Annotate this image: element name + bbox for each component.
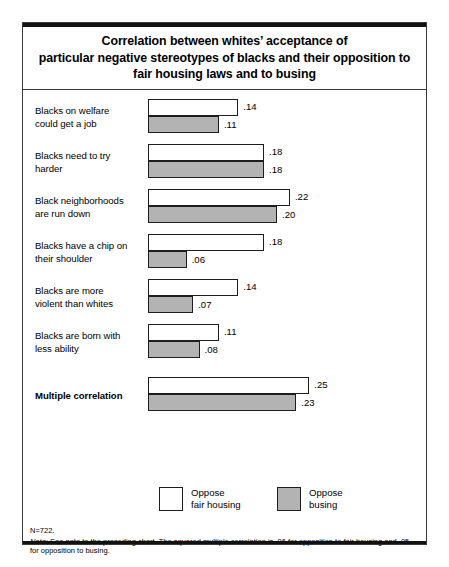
bar-value-oppose-busing: .23 xyxy=(301,398,314,408)
bar-row: Blacks have a chip ontheir shoulder.18.0… xyxy=(23,233,426,273)
bar-oppose-busing xyxy=(148,394,296,411)
bar-value-oppose-busing: .06 xyxy=(192,255,205,265)
bar-row-label-line: Blacks are born with xyxy=(35,330,147,343)
bar-group: .22.20 xyxy=(148,188,426,228)
legend-item: Opposebusing xyxy=(277,487,343,512)
bar-oppose-fair-housing xyxy=(148,324,219,341)
bar-row: Blacks on welfarecould get a job.14.11 xyxy=(23,98,426,138)
bar-oppose-busing xyxy=(148,116,219,133)
bar-row-label: Black neighborhoodsare run down xyxy=(35,188,147,228)
bar-group: .14.07 xyxy=(148,278,426,318)
footnote-note-text: See note to the preceding chart. The squ… xyxy=(30,537,409,556)
bar-oppose-fair-housing xyxy=(148,144,264,161)
bar-row-label: Blacks on welfarecould get a job xyxy=(35,98,147,138)
legend-swatch-white xyxy=(159,487,183,511)
bar-row-label: Blacks are born withless ability xyxy=(35,323,147,363)
legend-label-line: fair housing xyxy=(191,499,241,511)
chart-frame: Correlation between whites’ acceptance o… xyxy=(22,22,427,545)
bar-row: Blacks are born withless ability.11.08 xyxy=(23,323,426,363)
legend-label: Opposefair housing xyxy=(191,487,241,512)
bar-value-oppose-busing: .08 xyxy=(205,345,218,355)
legend-label-line: busing xyxy=(309,499,343,511)
bar-row: Multiple correlation.25.23 xyxy=(23,376,426,416)
bar-value-oppose-busing: .18 xyxy=(269,165,282,175)
bar-oppose-fair-housing xyxy=(148,377,309,394)
bar-row-label-line: their shoulder xyxy=(35,253,147,266)
bar-value-oppose-fair-housing: .18 xyxy=(269,147,282,157)
bar-oppose-fair-housing xyxy=(148,234,264,251)
chart-title: Correlation between whites’ acceptance o… xyxy=(23,27,426,90)
bar-row-label-line: Blacks are more xyxy=(35,285,147,298)
bar-group: .11.08 xyxy=(148,323,426,363)
bar-row: Black neighborhoodsare run down.22.20 xyxy=(23,188,426,228)
plot-area: Blacks on welfarecould get a job.14.11Bl… xyxy=(23,91,426,490)
bar-oppose-fair-housing xyxy=(148,189,290,206)
chart-title-line-1: Correlation between whites’ acceptance o… xyxy=(39,33,411,50)
bar-oppose-busing xyxy=(148,251,187,268)
bar-row-label-line: violent than whites xyxy=(35,298,147,311)
bar-value-oppose-fair-housing: .11 xyxy=(224,327,237,337)
frame-bottom-rule xyxy=(23,541,426,544)
bar-row-label: Blacks are moreviolent than whites xyxy=(35,278,147,318)
bar-group: .25.23 xyxy=(148,376,426,416)
bar-oppose-fair-housing xyxy=(148,279,238,296)
bar-value-oppose-fair-housing: .14 xyxy=(243,282,256,292)
bar-row-label-line: could get a job xyxy=(35,118,147,131)
bar-group: .14.11 xyxy=(148,98,426,138)
chart-title-text: Correlation between whites’ acceptance o… xyxy=(39,33,411,83)
bar-row-label: Blacks have a chip ontheir shoulder xyxy=(35,233,147,273)
bar-row-label-line: harder xyxy=(35,163,147,176)
legend-label-line: Oppose xyxy=(309,487,343,499)
bar-value-oppose-fair-housing: .18 xyxy=(269,237,282,247)
bar-row-label-line: Blacks need to try xyxy=(35,150,147,163)
bar-value-oppose-fair-housing: .14 xyxy=(243,102,256,112)
bar-value-oppose-fair-housing: .25 xyxy=(314,380,327,390)
bar-row-label: Multiple correlation xyxy=(35,376,147,416)
footnote-sample-size: N=722. xyxy=(30,526,419,536)
bar-row: Blacks need to tryharder.18.18 xyxy=(23,143,426,183)
bar-oppose-busing xyxy=(148,161,264,178)
bar-row-label-line: Black neighborhoods xyxy=(35,195,147,208)
bar-row: Blacks are moreviolent than whites.14.07 xyxy=(23,278,426,318)
legend-item: Opposefair housing xyxy=(159,487,241,512)
bar-group: .18.06 xyxy=(148,233,426,273)
footnote-note: Note: See note to the preceding chart. T… xyxy=(30,537,419,556)
bar-value-oppose-busing: .20 xyxy=(282,210,295,220)
legend-label: Opposebusing xyxy=(309,487,343,512)
bar-oppose-busing xyxy=(148,341,200,358)
legend-swatch-gray xyxy=(277,487,301,511)
bar-row-label-line: Multiple correlation xyxy=(35,390,147,403)
chart-title-line-2: particular negative stereotypes of black… xyxy=(39,50,411,67)
bar-row-label-line: are run down xyxy=(35,208,147,221)
bar-row-label: Blacks need to tryharder xyxy=(35,143,147,183)
bar-oppose-fair-housing xyxy=(148,99,238,116)
bar-value-oppose-busing: .11 xyxy=(224,120,237,130)
legend-label-line: Oppose xyxy=(191,487,241,499)
bar-row-label-line: Blacks on welfare xyxy=(35,105,147,118)
bar-oppose-busing xyxy=(148,206,277,223)
bar-value-oppose-fair-housing: .22 xyxy=(295,192,308,202)
bar-group: .18.18 xyxy=(148,143,426,183)
bar-row-label-line: less ability xyxy=(35,343,147,356)
bar-oppose-busing xyxy=(148,296,193,313)
bar-row-label-line: Blacks have a chip on xyxy=(35,240,147,253)
chart-legend: Opposefair housingOpposebusing xyxy=(23,487,426,525)
chart-title-line-3: fair housing laws and to busing xyxy=(39,66,411,83)
bar-value-oppose-busing: .07 xyxy=(198,300,211,310)
